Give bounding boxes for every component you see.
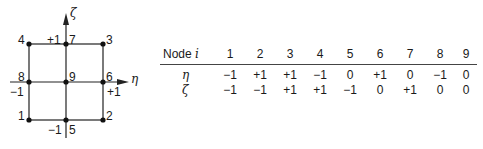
table-header-row: Node i 1 2 3 4 5 6 7 8 9 bbox=[160, 47, 477, 65]
node-label-9: 9 bbox=[69, 71, 76, 83]
node-label-1: 1 bbox=[18, 110, 25, 122]
node-column-header: Node i bbox=[160, 47, 215, 65]
zeta-axis-label: ζ bbox=[70, 7, 77, 19]
col-header: 4 bbox=[305, 47, 335, 65]
node-label-5: 5 bbox=[69, 124, 76, 136]
node-label-8: 8 bbox=[18, 71, 25, 83]
table-cell: +1 bbox=[275, 82, 305, 97]
col-header: 3 bbox=[275, 47, 305, 65]
col-header: 6 bbox=[365, 47, 395, 65]
eta-axis-label: η bbox=[131, 73, 138, 85]
node-label-6: 6 bbox=[106, 71, 113, 83]
node-index-var: i bbox=[195, 47, 199, 61]
table-row-eta: η −1 +1 +1 −1 0 +1 0 −1 0 bbox=[160, 65, 477, 83]
table-cell: −1 bbox=[305, 65, 335, 83]
zeta-arrow-icon bbox=[63, 13, 69, 25]
table-cell: −1 bbox=[245, 82, 275, 97]
table-cell: 0 bbox=[395, 65, 425, 83]
row-var: η bbox=[160, 65, 215, 83]
table-cell: 0 bbox=[455, 65, 477, 83]
tick-label-top: +1 bbox=[47, 34, 61, 46]
table-cell: 0 bbox=[365, 82, 395, 97]
node-label-7: 7 bbox=[69, 34, 76, 46]
col-header: 8 bbox=[425, 47, 455, 65]
table-cell: 0 bbox=[455, 82, 477, 97]
table-cell: +1 bbox=[305, 82, 335, 97]
tick-label-bottom: −1 bbox=[48, 124, 62, 136]
tick-label-left: −1 bbox=[10, 86, 24, 98]
table-cell: +1 bbox=[245, 65, 275, 83]
table-cell: −1 bbox=[335, 82, 365, 97]
table-cell: −1 bbox=[425, 65, 455, 83]
col-header: 1 bbox=[215, 47, 245, 65]
node-label-2: 2 bbox=[106, 110, 113, 122]
table-cell: +1 bbox=[365, 65, 395, 83]
col-header: 5 bbox=[335, 47, 365, 65]
node-header-text: Node bbox=[163, 47, 192, 61]
tick-label-right: +1 bbox=[107, 86, 121, 98]
table-cell: +1 bbox=[395, 82, 425, 97]
table-cell: −1 bbox=[215, 65, 245, 83]
table-cell: −1 bbox=[215, 82, 245, 97]
table-cell: 0 bbox=[335, 65, 365, 83]
col-header: 7 bbox=[395, 47, 425, 65]
table-cell: +1 bbox=[275, 65, 305, 83]
col-header: 2 bbox=[245, 47, 275, 65]
table-cell: 0 bbox=[425, 82, 455, 97]
node-coordinate-table: Node i 1 2 3 4 5 6 7 8 9 η −1 +1 +1 −1 0… bbox=[160, 47, 477, 97]
table-row-zeta: ζ −1 −1 +1 +1 −1 0 +1 0 0 bbox=[160, 82, 477, 97]
col-header: 9 bbox=[455, 47, 477, 65]
node-label-3: 3 bbox=[106, 34, 113, 46]
row-var: ζ bbox=[160, 82, 215, 97]
node-label-4: 4 bbox=[18, 34, 25, 46]
